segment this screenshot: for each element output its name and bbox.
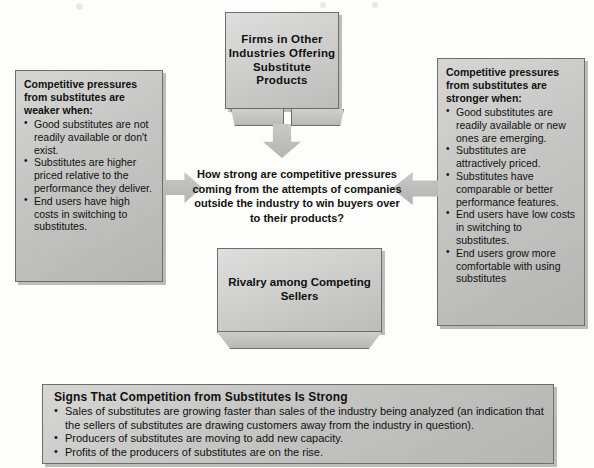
down-arrow-icon [263, 124, 301, 158]
center-question-text: How strong are competitive pressures com… [192, 167, 402, 226]
rivalry-box-title: Rivalry among Competing Sellers [218, 276, 381, 303]
firms-box-right-leg [291, 109, 344, 126]
list-item: End users grow more comfortable with usi… [446, 247, 576, 285]
firms-in-other-industries-box: Firms in Other Industries Offering Subst… [225, 12, 339, 109]
signs-of-strong-substitute-competition-panel: Signs That Competition from Substitutes … [42, 384, 554, 464]
list-item: Good substitutes are not readily availab… [24, 118, 154, 156]
scan-artifact [320, 2, 326, 8]
scan-artifact [372, 2, 378, 8]
list-item: End users have high costs in switching t… [24, 195, 154, 233]
weaker-panel-bullet-list: Good substitutes are not readily availab… [24, 118, 154, 233]
list-item: Sales of substitutes are growing faster … [52, 405, 544, 432]
signs-panel-title: Signs That Competition from Substitutes … [54, 390, 544, 404]
list-item: Profits of the producers of substitutes … [52, 446, 544, 460]
list-item: Substitutes are higher priced relative t… [24, 156, 154, 194]
firms-box-title: Firms in Other Industries Offering Subst… [226, 33, 338, 87]
rivalry-among-competing-sellers-box: Rivalry among Competing Sellers [217, 248, 382, 332]
list-item: Substitutes have comparable or better pe… [446, 170, 576, 208]
weaker-panel-heading: Competitive pressures from substitutes a… [24, 78, 154, 117]
rivalry-box-base [217, 332, 382, 349]
stronger-panel-bullet-list: Good substitutes are readily available o… [446, 106, 576, 285]
scan-artifact [76, 3, 83, 10]
list-item: End users have low costs in switching to… [446, 208, 576, 246]
signs-panel-bullet-list: Sales of substitutes are growing faster … [52, 405, 544, 460]
diagram-canvas: Firms in Other Industries Offering Subst… [0, 0, 594, 468]
weaker-pressures-panel: Competitive pressures from substitutes a… [15, 70, 163, 282]
list-item: Good substitutes are readily available o… [446, 106, 576, 144]
list-item: Producers of substitutes are moving to a… [52, 432, 544, 446]
firms-box-left-leg [231, 109, 284, 126]
list-item: Substitutes are attractively priced. [446, 144, 576, 170]
stronger-panel-heading: Competitive pressures from substitutes a… [446, 66, 576, 105]
stronger-pressures-panel: Competitive pressures from substitutes a… [437, 58, 585, 326]
